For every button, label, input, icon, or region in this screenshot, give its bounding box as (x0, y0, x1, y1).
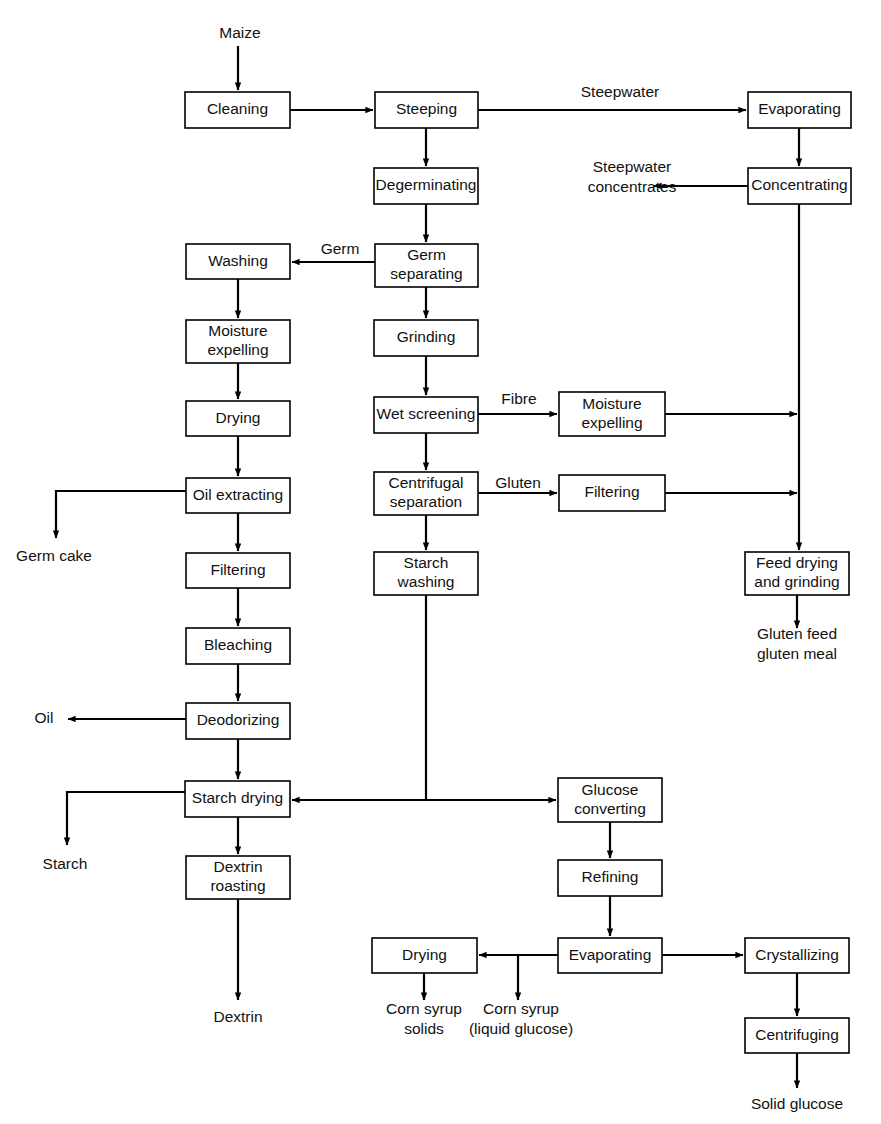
annotation-text: Germ cake (16, 547, 92, 564)
annotation-text: (liquid glucose) (469, 1020, 573, 1037)
process-box-label: Degerminating (376, 176, 477, 193)
process-box-label: Grinding (397, 328, 456, 345)
annotation-dextrin: Dextrin (213, 1008, 262, 1025)
annotation-text: gluten meal (757, 645, 837, 662)
annotation-text: Steepwater (581, 83, 659, 100)
annotation-text: Steepwater (593, 158, 671, 175)
process-node-cleaning[interactable]: Cleaning (185, 92, 290, 128)
annotation-steepwater-conc: Steepwaterconcentrates (588, 158, 677, 195)
process-box-label: expelling (581, 414, 642, 431)
process-node-moisture-exp-l[interactable]: Moistureexpelling (186, 320, 290, 363)
annotation-fibre: Fibre (501, 390, 536, 407)
process-box-label: Steeping (396, 100, 457, 117)
annotation-text: Germ (321, 240, 360, 257)
process-box-label: expelling (207, 341, 268, 358)
process-node-filtering-oil[interactable]: Filtering (186, 553, 290, 588)
process-box-label: roasting (210, 877, 265, 894)
process-box-label: separating (390, 265, 462, 282)
process-box-label: Moisture (208, 322, 267, 339)
process-node-crystallizing[interactable]: Crystallizing (745, 938, 849, 973)
process-node-starch-drying[interactable]: Starch drying (185, 781, 290, 817)
process-node-steeping[interactable]: Steeping (375, 92, 478, 128)
process-node-wet-screening[interactable]: Wet screening (374, 397, 478, 433)
flowchart-canvas: CleaningSteepingEvaporatingDegerminating… (0, 0, 881, 1124)
process-box-label: Glucose (582, 781, 639, 798)
process-node-moisture-exp-r[interactable]: Moistureexpelling (559, 392, 665, 436)
process-box-label: Filtering (210, 561, 265, 578)
annotation-text: Corn syrup (386, 1000, 462, 1017)
process-box-label: Drying (402, 946, 447, 963)
process-box-label: Evaporating (758, 100, 841, 117)
process-node-grinding[interactable]: Grinding (374, 320, 478, 356)
process-box-label: Germ (407, 246, 446, 263)
process-node-feed-drying[interactable]: Feed dryingand grinding (745, 552, 849, 595)
process-box-label: Centrifuging (755, 1026, 839, 1043)
process-box-label: Dextrin (213, 858, 262, 875)
annotation-text: Solid glucose (751, 1095, 843, 1112)
annotation-starch: Starch (43, 855, 88, 872)
process-node-refining[interactable]: Refining (558, 860, 662, 896)
annotation-oil: Oil (35, 709, 54, 726)
process-box-label: separation (390, 493, 462, 510)
process-box-label: Starch (404, 554, 449, 571)
annotation-text: Dextrin (213, 1008, 262, 1025)
process-node-oil-extracting[interactable]: Oil extracting (186, 478, 290, 513)
process-node-centrifuging[interactable]: Centrifuging (745, 1018, 849, 1053)
annotation-corn-syrup-liquid: Corn syrup(liquid glucose) (469, 1000, 573, 1037)
process-box-label: Cleaning (207, 100, 268, 117)
process-box-label: and grinding (754, 573, 839, 590)
annotation-gluten-feed: Gluten feedgluten meal (757, 625, 837, 662)
annotation-solid-glucose: Solid glucose (751, 1095, 843, 1112)
process-box-label: Feed drying (756, 554, 838, 571)
process-node-starch-washing[interactable]: Starchwashing (374, 552, 478, 595)
process-node-germ-separating[interactable]: Germseparating (375, 244, 478, 287)
annotation-maize: Maize (219, 24, 260, 41)
process-box-label: Centrifugal (389, 474, 464, 491)
process-node-glucose-conv[interactable]: Glucoseconverting (558, 778, 662, 822)
process-node-degerminating[interactable]: Degerminating (374, 168, 478, 204)
process-box-label: washing (397, 573, 455, 590)
process-box-label: Wet screening (377, 405, 476, 422)
annotation-text: Gluten (495, 474, 541, 491)
annotation-text: Gluten feed (757, 625, 837, 642)
process-node-evaporating1[interactable]: Evaporating (748, 92, 851, 128)
process-node-concentrating[interactable]: Concentrating (748, 168, 851, 204)
process-box-label: Drying (216, 409, 261, 426)
annotation-text: concentrates (588, 178, 677, 195)
annotation-text: Maize (219, 24, 260, 41)
process-node-centrifugal-sep[interactable]: Centrifugalseparation (374, 472, 478, 515)
process-box-label: Washing (208, 252, 268, 269)
process-node-filtering-gluten[interactable]: Filtering (559, 475, 665, 511)
flowchart-svg: CleaningSteepingEvaporatingDegerminating… (0, 0, 881, 1124)
process-node-dextrin-roasting[interactable]: Dextrinroasting (186, 856, 290, 899)
process-node-drying-germ[interactable]: Drying (186, 401, 290, 436)
process-node-deodorizing[interactable]: Deodorizing (186, 703, 290, 739)
annotation-text: Corn syrup (483, 1000, 559, 1017)
process-box-label: Deodorizing (197, 711, 280, 728)
annotation-corn-syrup-solids: Corn syrupsolids (386, 1000, 462, 1037)
annotation-text: Fibre (501, 390, 536, 407)
process-box-label: Crystallizing (755, 946, 839, 963)
process-box-label: Starch drying (192, 789, 283, 806)
process-box-label: Bleaching (204, 636, 272, 653)
edge-oil-extracting-to-germ-cake (56, 491, 186, 538)
annotation-germ-cake: Germ cake (16, 547, 92, 564)
process-box-label: Filtering (584, 483, 639, 500)
process-node-washing[interactable]: Washing (186, 244, 290, 279)
annotation-steepwater: Steepwater (581, 83, 659, 100)
process-box-label: Refining (582, 868, 639, 885)
process-box-label: converting (574, 800, 646, 817)
process-box-label: Concentrating (751, 176, 848, 193)
process-node-bleaching[interactable]: Bleaching (186, 628, 290, 664)
annotation-text: Starch (43, 855, 88, 872)
annotation-text: Oil (35, 709, 54, 726)
annotation-gluten: Gluten (495, 474, 541, 491)
box-layer: CleaningSteepingEvaporatingDegerminating… (185, 92, 851, 1053)
process-node-drying-syrup[interactable]: Drying (372, 938, 477, 973)
process-node-evaporating2[interactable]: Evaporating (558, 938, 662, 973)
annotation-text: solids (404, 1020, 444, 1037)
process-box-label: Moisture (582, 395, 641, 412)
annotation-germ: Germ (321, 240, 360, 257)
process-box-label: Evaporating (569, 946, 652, 963)
process-box-label: Oil extracting (193, 486, 283, 503)
